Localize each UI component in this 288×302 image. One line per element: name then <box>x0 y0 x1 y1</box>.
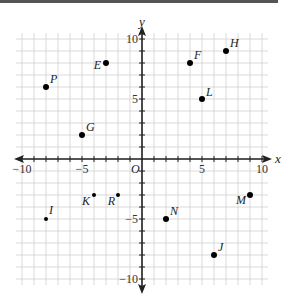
point-label: H <box>229 36 240 50</box>
point-label: L <box>205 85 213 99</box>
point-label: I <box>48 203 54 217</box>
point-marker <box>247 192 253 198</box>
point-label: R <box>107 194 116 208</box>
x-axis-label: x <box>274 151 281 166</box>
origin-label: O <box>131 162 140 176</box>
point-marker <box>103 60 109 66</box>
x-tick-label: 5 <box>199 162 205 176</box>
x-tick-label: 10 <box>256 162 268 176</box>
y-axis-label: y <box>137 14 145 29</box>
point-marker <box>163 216 169 222</box>
point-label: P <box>49 72 58 86</box>
point-marker <box>199 96 205 102</box>
point-marker <box>43 84 49 90</box>
y-tick-label: −5 <box>125 212 138 226</box>
point-marker <box>44 217 48 221</box>
point-label: F <box>193 48 202 62</box>
point-label: E <box>93 58 102 72</box>
x-tick-label: −10 <box>13 162 32 176</box>
point-L: L <box>199 85 213 102</box>
point-marker <box>223 48 229 54</box>
point-label: G <box>86 120 95 134</box>
point-I: I <box>44 203 54 221</box>
point-label: M <box>235 193 247 207</box>
point-marker <box>211 252 217 258</box>
point-marker <box>116 193 120 197</box>
point-label: K <box>81 194 91 208</box>
point-marker <box>79 132 85 138</box>
axes <box>14 26 272 294</box>
point-label: J <box>218 240 224 254</box>
point-label: N <box>169 204 179 218</box>
point-marker <box>187 60 193 66</box>
x-tick-label: −5 <box>76 162 89 176</box>
point-E: E <box>93 58 109 72</box>
y-tick-label: 5 <box>132 92 138 106</box>
y-tick-label: 10 <box>126 32 138 46</box>
y-tick-label: −10 <box>119 272 138 286</box>
point-marker <box>92 193 96 197</box>
coordinate-plane: −10−5510105−5−10 x y O PEGFHLIKRNJM <box>0 0 288 302</box>
